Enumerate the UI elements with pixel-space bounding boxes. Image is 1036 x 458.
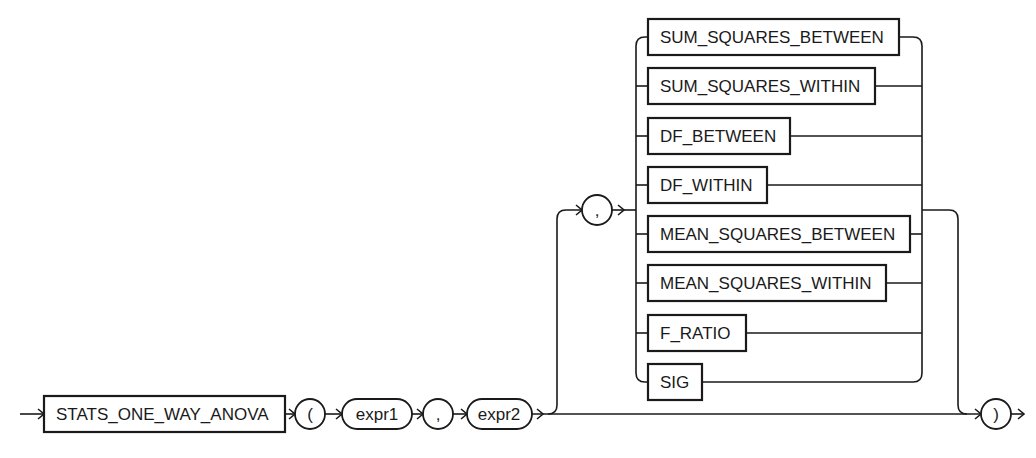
- option-mean-squares-within: MEAN_SQUARES_WITHIN: [648, 265, 886, 301]
- option-sig: SIG: [648, 364, 702, 400]
- close-paren-node: ): [981, 399, 1011, 429]
- option-df-within: DF_WITHIN: [648, 167, 767, 203]
- option-label: SUM_SQUARES_BETWEEN: [660, 28, 884, 47]
- optional-separator-node: ,: [582, 195, 612, 225]
- close-paren: ): [993, 405, 999, 424]
- syntax-diagram: STATS_ONE_WAY_ANOVA ( expr1 , expr2 , ) …: [0, 0, 1036, 458]
- open-paren-node: (: [295, 399, 325, 429]
- optional-separator: ,: [595, 201, 600, 220]
- separator-node: ,: [423, 399, 453, 429]
- option-label: MEAN_SQUARES_BETWEEN: [660, 225, 895, 244]
- option-label: SUM_SQUARES_WITHIN: [660, 77, 860, 96]
- option-label: DF_BETWEEN: [660, 127, 776, 146]
- separator: ,: [436, 405, 441, 424]
- function-keyword: STATS_ONE_WAY_ANOVA: [56, 405, 269, 424]
- option-sum-squares-between: SUM_SQUARES_BETWEEN: [648, 19, 899, 55]
- function-keyword-box: STATS_ONE_WAY_ANOVA: [44, 396, 285, 432]
- option-label: DF_WITHIN: [660, 176, 753, 195]
- option-mean-squares-between: MEAN_SQUARES_BETWEEN: [648, 216, 910, 252]
- option-df-between: DF_BETWEEN: [648, 118, 790, 154]
- option-sum-squares-within: SUM_SQUARES_WITHIN: [648, 68, 875, 104]
- option-label: MEAN_SQUARES_WITHIN: [660, 274, 872, 293]
- expr2-label: expr2: [478, 405, 521, 424]
- option-label: SIG: [660, 373, 689, 392]
- option-label: F_RATIO: [660, 324, 731, 343]
- open-paren: (: [307, 405, 313, 424]
- expr2-node: expr2: [467, 399, 532, 429]
- expr1-node: expr1: [342, 399, 412, 429]
- option-f-ratio: F_RATIO: [648, 315, 746, 351]
- expr1-label: expr1: [356, 405, 399, 424]
